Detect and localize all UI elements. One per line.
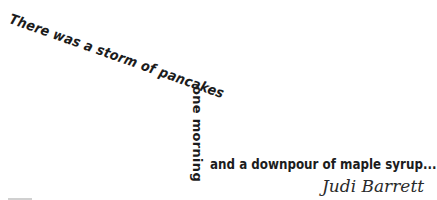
- decorative-mark: [8, 198, 32, 200]
- author-signature: Judi Barrett: [322, 176, 424, 196]
- quote-line-2-vertical: one morning: [190, 86, 205, 182]
- quote-line-3: and a downpour of maple syrup...: [210, 156, 436, 172]
